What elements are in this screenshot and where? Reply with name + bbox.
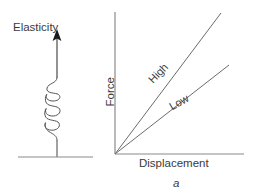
- elasticity-title: Elasticity: [13, 22, 58, 34]
- y-axis-label: Force: [105, 77, 117, 106]
- force-displacement-chart: [115, 12, 244, 154]
- spring-diagram-group: [18, 29, 93, 157]
- coil-spring-icon: [45, 78, 60, 140]
- x-axis-label: Displacement: [139, 158, 209, 170]
- figure-caption: a: [173, 178, 179, 190]
